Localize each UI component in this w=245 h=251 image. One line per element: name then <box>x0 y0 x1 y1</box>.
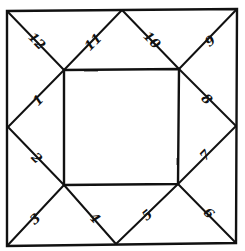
house-label-6: 6 <box>200 204 217 221</box>
house-label-8: 8 <box>198 90 215 107</box>
ink-mark-inner-top <box>84 69 98 71</box>
house-label-11: 11 <box>81 30 104 53</box>
inner-square <box>64 69 179 185</box>
house-label-7: 7 <box>196 146 213 163</box>
horoscope-square-diagram: 12 11 10 9 1 8 2 7 3 4 5 6 <box>0 0 245 251</box>
house-label-1: 1 <box>29 91 46 108</box>
ink-mark-inner-right <box>177 158 179 165</box>
house-label-9: 9 <box>202 32 219 49</box>
house-label-3: 3 <box>27 210 44 227</box>
diamond-edge-bottom-left <box>64 185 116 244</box>
